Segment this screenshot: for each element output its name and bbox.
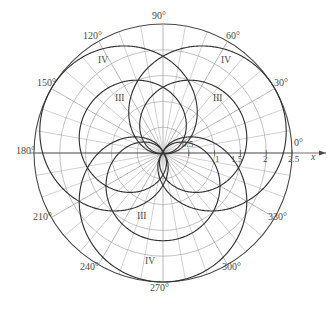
angle-label-150: 150°: [37, 78, 56, 88]
radial-tick-1: 1: [215, 155, 220, 164]
radial-tick-2: 2: [263, 155, 268, 164]
angle-label-60: 60°: [226, 31, 240, 41]
curve-label-iv-upper-left: IV: [98, 56, 108, 66]
radial-tick-0-5: 0.5: [182, 140, 193, 149]
curve-iii-0: [79, 80, 186, 192]
polar-plot-canvas: [0, 0, 327, 311]
angle-label-30: 30°: [274, 78, 288, 88]
angle-label-270: 270°: [150, 283, 169, 293]
polar-plot-figure: 0° 30° 60° 90° 120° 150° 180° 210° 240° …: [0, 0, 327, 311]
curve-iii-1: [140, 80, 247, 192]
grid-spoke-minor-50: [163, 54, 246, 153]
arrow-right-icon: [319, 150, 326, 155]
angle-label-120: 120°: [83, 31, 102, 41]
curve-label-iii-mid-right: III: [213, 94, 223, 104]
grid-spoke-minor-130: [80, 54, 163, 153]
angle-label-300: 300°: [222, 262, 241, 272]
grid-spoke-minor-310: [163, 153, 246, 252]
angle-label-330: 330°: [268, 212, 287, 222]
curve-label-iii-mid-left: III: [115, 94, 125, 104]
radial-tick-1-5: 1.5: [231, 155, 242, 164]
angle-label-0: 0°: [294, 138, 303, 148]
curve-label-iv-bottom: IV: [145, 257, 155, 267]
angle-label-90: 90°: [152, 11, 166, 21]
angle-label-210: 210°: [33, 212, 52, 222]
grid-spoke-minor-230: [80, 153, 163, 252]
curve-label-iii-lower: III: [137, 212, 147, 222]
angle-label-180: 180°: [16, 146, 35, 156]
angle-label-240: 240°: [80, 262, 99, 272]
x-axis-label: x: [311, 152, 315, 162]
radial-tick-2-5: 2.5: [288, 155, 299, 164]
curve-label-iv-upper-right: IV: [221, 56, 231, 66]
